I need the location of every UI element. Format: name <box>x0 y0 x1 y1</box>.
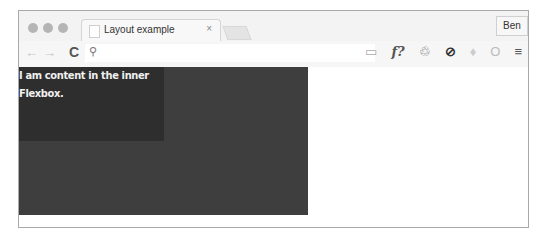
window-controls <box>28 23 68 33</box>
profile-button[interactable]: Ben <box>496 16 528 36</box>
inner-flexbox: I am content in the inner Flexbox. <box>19 67 164 141</box>
extension-icons: ▭ f? ♲ ⊘ ♦ O ≡ <box>365 44 522 59</box>
tab-layout-example[interactable]: Layout example × <box>81 19 221 41</box>
screenshot-extension-icon[interactable]: ▭ <box>365 44 377 59</box>
reload-icon[interactable]: C <box>69 44 79 60</box>
search-icon: ⚲ <box>89 45 97 58</box>
tab-close-icon[interactable]: × <box>206 23 212 34</box>
browser-window: Layout example × Ben ← → C ⚲ ▭ f? ♲ ⊘ ♦ … <box>18 10 529 228</box>
page-content: I am content in the inner Flexbox. <box>19 67 528 227</box>
new-tab-button[interactable] <box>222 26 251 40</box>
minimize-window-button[interactable] <box>43 23 53 33</box>
block-extension-icon[interactable]: ⊘ <box>445 44 456 59</box>
menu-icon[interactable]: ≡ <box>514 44 522 59</box>
pin-extension-icon[interactable]: ♦ <box>470 44 477 59</box>
close-window-button[interactable] <box>28 23 38 33</box>
tab-strip: Layout example × Ben <box>19 11 528 41</box>
back-icon[interactable]: ← <box>25 45 38 60</box>
address-bar[interactable]: ⚲ <box>85 44 375 62</box>
outer-flexbox: I am content in the inner Flexbox. <box>19 67 308 215</box>
tab-title: Layout example <box>104 24 175 35</box>
maximize-window-button[interactable] <box>58 23 68 33</box>
forward-icon[interactable]: → <box>43 45 56 60</box>
opera-extension-icon[interactable]: O <box>490 44 500 59</box>
page-icon <box>89 25 100 38</box>
recycle-extension-icon[interactable]: ♲ <box>419 44 431 59</box>
browser-toolbar: ← → C ⚲ ▭ f? ♲ ⊘ ♦ O ≡ <box>19 41 528 68</box>
font-extension-icon[interactable]: f? <box>391 44 404 59</box>
inner-flexbox-text: I am content in the inner Flexbox. <box>19 67 163 103</box>
